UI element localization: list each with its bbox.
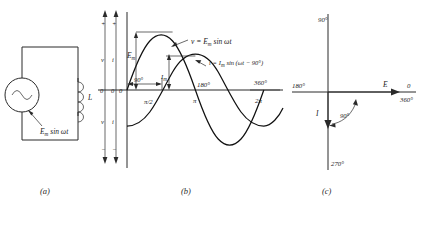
ac-source-symbol <box>5 78 39 112</box>
phasor-axis-label-0: 0 <box>407 82 411 89</box>
polarity-scale: + + v i 0 0 v i − − <box>100 10 118 164</box>
current-equation-annotation: i =Im sin (ωt − 90°) <box>195 59 263 68</box>
scale-label-i: i <box>112 56 114 63</box>
scale-label-v: v <box>101 56 104 63</box>
x-tick-rad-360: 2π <box>255 97 262 104</box>
scale-label-v-neg: v <box>101 118 104 125</box>
inductor-symbol <box>78 78 84 122</box>
phasor-label-E: E <box>382 80 388 89</box>
x-tick-rad-180: π <box>193 97 197 104</box>
caption-a: (a) <box>40 186 50 196</box>
phasor-label-I: I <box>315 109 319 118</box>
amplitude-label-em: Em <box>126 51 136 61</box>
x-tick-deg-360: 360° <box>253 79 267 86</box>
voltage-equation-annotation: v =Em sin ωt <box>171 37 232 47</box>
current-equation: i =Im sin (ωt − 90°) <box>209 59 263 68</box>
phasor-axis-label-360: 360° <box>399 96 413 103</box>
phase-angle-label: 90° <box>340 112 350 119</box>
phase-lag-label: 90° <box>134 76 144 83</box>
polarity-plus-i: + <box>112 20 116 27</box>
amplitude-label-im: Im <box>160 73 167 82</box>
source-label-rest: sin ωt <box>48 127 69 136</box>
phasor-axis-label-270: 270° <box>331 160 344 167</box>
polarity-minus-v: − <box>101 146 105 153</box>
phasor-axis-label-90: 90° <box>318 16 328 23</box>
inductor-label: L <box>87 93 92 102</box>
svg-text:Em sin ωt: Em sin ωt <box>39 127 69 137</box>
x-tick-deg-180: 180° <box>197 81 210 88</box>
panel-c-phasor: E I 90° 90° 180° 270° 0 360° <box>288 0 427 180</box>
panel-a-circuit: L Em sin ωt <box>0 0 100 175</box>
caption-b: (b) <box>181 186 191 196</box>
phasor-E <box>328 88 400 95</box>
polarity-plus-v: + <box>101 20 105 27</box>
phase-angle-arc: 90° <box>329 99 358 128</box>
figure-ac-inductor: L Em sin ωt (a) + + <box>0 0 427 225</box>
phasor-I <box>324 92 331 129</box>
panel-b-waveforms: + + v i 0 0 v i − − <box>98 0 288 180</box>
phasor-axis-label-180: 180° <box>292 82 305 89</box>
polarity-minus-i: − <box>112 146 116 153</box>
voltage-equation: v =Em sin ωt <box>191 37 232 47</box>
x-tick-rad-90: π/2 <box>144 98 153 105</box>
scale-label-i-neg: i <box>112 118 114 125</box>
caption-c: (c) <box>322 186 331 196</box>
phase-lag-marker: 90° <box>127 76 162 90</box>
